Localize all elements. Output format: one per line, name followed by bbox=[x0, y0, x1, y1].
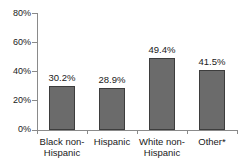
x-axis-tick-mark-1 bbox=[87, 130, 88, 134]
x-axis-tick-mark-3 bbox=[187, 130, 188, 134]
x-axis-label-line: Other* bbox=[181, 136, 242, 147]
bar-chart: 80% 60% 40% 20% 0% 30.2% 28.9% 49.4% 41.… bbox=[0, 0, 242, 165]
y-axis-tick-label-20: 20% bbox=[1, 96, 31, 105]
y-axis-tick-label-40: 40% bbox=[1, 67, 31, 76]
x-axis-tick-mark-4 bbox=[237, 130, 238, 134]
bar-hispanic bbox=[99, 88, 125, 130]
y-axis-tick-0: 0% bbox=[0, 125, 31, 134]
bar-white-non-hispanic bbox=[149, 58, 175, 130]
x-axis-tick-mark-0 bbox=[37, 130, 38, 134]
x-axis-tick-mark-2 bbox=[137, 130, 138, 134]
bar-black-non-hispanic bbox=[49, 86, 75, 130]
y-axis-tick-80: 80% bbox=[0, 9, 31, 18]
bar-other bbox=[199, 70, 225, 130]
y-axis-tick-label-60: 60% bbox=[1, 38, 31, 47]
x-axis-label-line: Hispanic bbox=[31, 147, 93, 158]
bar-value-hispanic: 28.9% bbox=[82, 75, 142, 85]
bar-value-other: 41.5% bbox=[182, 57, 242, 67]
y-axis-line bbox=[37, 13, 38, 131]
y-axis-tick-label-80: 80% bbox=[1, 9, 31, 18]
bar-value-white-non-hispanic: 49.4% bbox=[132, 45, 192, 55]
x-axis-label-line: Hispanic bbox=[131, 147, 193, 158]
y-axis-tick-40: 40% bbox=[0, 67, 31, 76]
y-axis-tick-label-0: 0% bbox=[1, 125, 31, 134]
y-axis-tick-60: 60% bbox=[0, 38, 31, 47]
x-axis-label-other: Other* bbox=[181, 136, 242, 147]
y-axis-tick-20: 20% bbox=[0, 96, 31, 105]
